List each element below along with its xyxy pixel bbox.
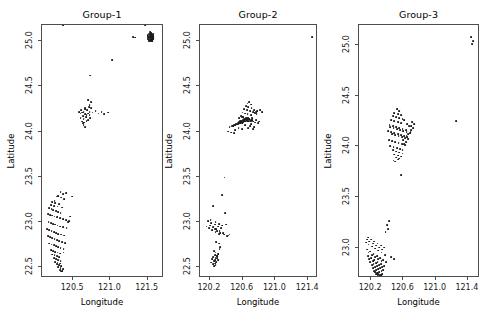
data-point	[218, 223, 220, 225]
data-point	[383, 265, 385, 267]
data-point	[377, 261, 379, 263]
data-point	[380, 245, 382, 247]
y-tick-mark	[355, 44, 358, 45]
x-tick-mark	[402, 277, 403, 280]
data-point	[78, 111, 80, 113]
data-point	[390, 126, 392, 128]
data-point	[370, 239, 372, 241]
data-point	[58, 203, 60, 205]
data-point	[208, 227, 210, 229]
data-point	[388, 139, 390, 141]
x-axis-title: Longitude	[81, 297, 123, 307]
y-tick-mark	[196, 131, 199, 132]
data-point	[390, 256, 392, 258]
data-point	[62, 226, 64, 228]
data-point	[390, 119, 392, 121]
data-point	[52, 209, 54, 211]
x-axis-title: Longitude	[397, 297, 439, 307]
y-tick-mark	[196, 176, 199, 177]
data-point	[388, 220, 390, 222]
data-point	[215, 221, 217, 223]
data-point	[111, 59, 113, 61]
y-tick-mark	[38, 40, 41, 41]
data-point	[60, 212, 62, 214]
data-point	[61, 241, 63, 243]
data-point	[104, 114, 106, 116]
y-tick-label: 23.0	[25, 212, 34, 230]
data-point	[63, 248, 65, 250]
y-tick-label: 25.0	[25, 31, 34, 49]
data-point	[243, 122, 245, 124]
x-tick-mark	[209, 277, 210, 280]
y-tick-label: 23.0	[342, 238, 351, 256]
y-tick-label: 24.0	[25, 122, 34, 140]
data-point	[394, 154, 396, 156]
data-point	[207, 220, 209, 222]
data-point	[247, 106, 249, 108]
data-point	[398, 110, 400, 112]
data-point	[261, 111, 263, 113]
x-tick-mark	[242, 277, 243, 280]
data-point	[402, 153, 404, 155]
data-point	[398, 142, 400, 144]
data-point	[407, 138, 409, 140]
data-point	[223, 234, 225, 236]
data-point	[254, 122, 256, 124]
data-point	[251, 119, 253, 121]
data-point	[374, 266, 376, 268]
data-point	[371, 254, 373, 256]
data-point	[62, 193, 64, 195]
data-point	[394, 258, 396, 260]
data-point	[234, 133, 236, 135]
data-point	[89, 114, 91, 116]
data-point	[134, 37, 136, 39]
data-point	[373, 263, 375, 265]
data-point	[241, 128, 243, 130]
data-point	[65, 192, 67, 194]
x-tick-label: 120.6	[230, 283, 253, 292]
data-point	[385, 232, 387, 234]
y-tick-label: 24.0	[342, 137, 351, 155]
data-point	[107, 112, 109, 114]
data-point	[150, 40, 152, 42]
data-point	[379, 267, 381, 269]
data-point	[377, 268, 379, 270]
data-point	[378, 264, 380, 266]
data-point	[381, 260, 383, 262]
data-point	[60, 271, 62, 273]
plot-area-1	[41, 24, 163, 277]
data-point	[255, 119, 257, 121]
data-point	[144, 24, 146, 26]
data-point	[256, 114, 258, 116]
data-point	[212, 205, 214, 207]
data-point	[394, 134, 396, 136]
data-point	[238, 123, 240, 125]
data-point	[376, 265, 378, 267]
data-point	[250, 104, 252, 106]
data-point	[234, 124, 236, 126]
data-point	[392, 115, 394, 117]
data-point	[394, 112, 396, 114]
data-point	[57, 206, 59, 208]
data-point	[402, 130, 404, 132]
data-point	[397, 121, 399, 123]
data-point	[228, 235, 230, 237]
data-point	[66, 227, 68, 229]
data-point	[371, 264, 373, 266]
y-tick-mark	[38, 266, 41, 267]
data-point	[241, 123, 243, 125]
data-point	[226, 236, 228, 238]
data-point	[372, 267, 374, 269]
data-point	[218, 243, 220, 245]
data-point	[220, 232, 222, 234]
data-point	[85, 116, 87, 118]
data-point	[53, 205, 55, 207]
y-axis-title: Latitude	[6, 133, 16, 168]
data-point	[61, 207, 63, 209]
data-point	[238, 127, 240, 129]
scatter-plot-figure: Group-1120.5121.0121.522.523.023.524.024…	[0, 0, 487, 321]
x-tick-label: 120.5	[61, 283, 84, 292]
data-point	[59, 226, 61, 228]
data-point	[403, 119, 405, 121]
data-point	[63, 198, 65, 200]
